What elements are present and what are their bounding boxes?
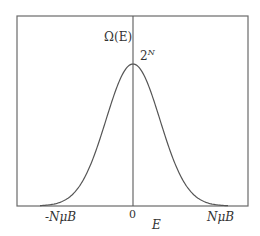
- peak-value-label: 2N: [140, 49, 155, 62]
- x-tick-positive: NμB: [207, 211, 234, 223]
- peak-exponent: N: [148, 48, 155, 57]
- y-axis-label: Ω(E): [104, 31, 132, 43]
- x-tick-negative: -NμB: [45, 211, 76, 223]
- x-axis-label: E: [152, 219, 161, 231]
- gaussian-curve: [40, 64, 228, 206]
- x-tick-zero: 0: [129, 209, 136, 220]
- peak-base: 2: [140, 49, 148, 63]
